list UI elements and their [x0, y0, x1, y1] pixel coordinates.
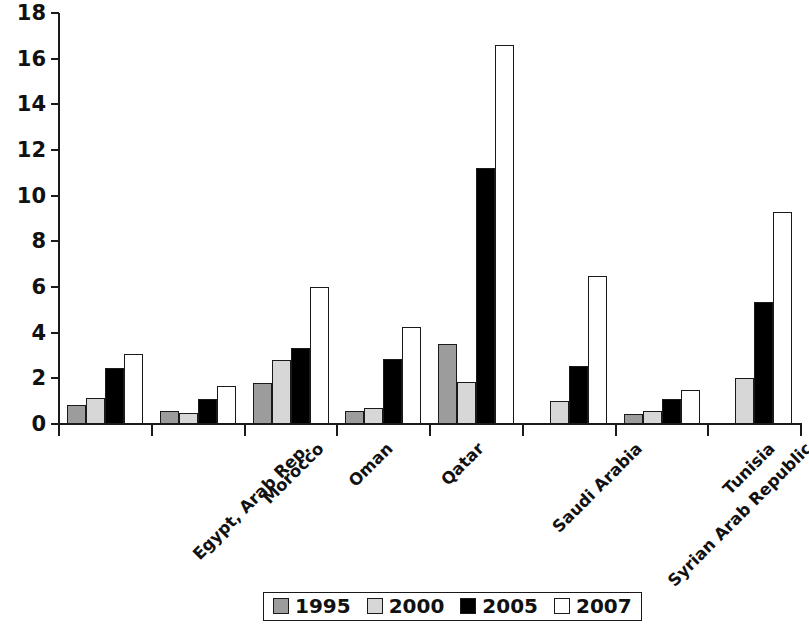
- bar: [402, 327, 421, 424]
- legend-label: 1995: [295, 596, 351, 616]
- bar: [681, 390, 700, 424]
- bar: [272, 360, 291, 424]
- x-tick-mark: [336, 425, 338, 436]
- bar-group-bars: [707, 13, 809, 424]
- legend-item: 1995: [273, 596, 351, 616]
- y-tick-label: 18: [17, 1, 46, 25]
- bar: [86, 398, 105, 424]
- x-tick-mark: [429, 425, 431, 436]
- bar: [457, 382, 476, 424]
- bar-group: [58, 13, 151, 424]
- x-tick-mark: [244, 425, 246, 436]
- bar-group: [615, 13, 708, 424]
- bar: [67, 405, 86, 424]
- bar: [345, 411, 364, 424]
- bar: [179, 413, 198, 424]
- y-tick-label: 4: [31, 321, 46, 345]
- bar: [754, 302, 773, 424]
- bar: [364, 408, 383, 424]
- legend-label: 2000: [389, 596, 445, 616]
- x-tick-mark: [522, 425, 524, 436]
- plot-area: [58, 13, 800, 424]
- bar: [217, 386, 236, 424]
- bar-group-bars: [615, 13, 717, 424]
- bar: [160, 411, 179, 424]
- bar-group-bars: [429, 13, 531, 424]
- bar: [569, 366, 588, 424]
- bar: [291, 348, 310, 424]
- bar-group-bars: [336, 13, 438, 424]
- bar-group-bars: [151, 13, 253, 424]
- bar: [735, 378, 754, 424]
- bar: [310, 287, 329, 424]
- y-tick-label: 8: [31, 229, 46, 253]
- bar-group-bars: [244, 13, 346, 424]
- legend-item: 2005: [460, 596, 538, 616]
- bar: [253, 383, 272, 424]
- bar-group: [429, 13, 522, 424]
- bar: [476, 168, 495, 424]
- bar-group: [707, 13, 800, 424]
- legend-swatch: [367, 598, 383, 614]
- y-tick-label: 2: [31, 366, 46, 390]
- bar-group: [336, 13, 429, 424]
- bar: [105, 368, 124, 424]
- bar: [383, 359, 402, 424]
- bar: [124, 354, 143, 424]
- x-tick-mark: [707, 425, 709, 436]
- bar: [550, 401, 569, 424]
- bar-group: [244, 13, 337, 424]
- x-axis-label: Oman: [345, 439, 397, 491]
- bar: [495, 45, 514, 424]
- legend-label: 2005: [482, 596, 538, 616]
- bar-group: [151, 13, 244, 424]
- x-axis-label: Qatar: [437, 439, 487, 489]
- bar: [773, 212, 792, 424]
- bar: [643, 411, 662, 424]
- bar: [624, 414, 643, 424]
- chart-legend: 1995200020052007: [263, 592, 642, 621]
- bar: [662, 399, 681, 424]
- bar-chart: 024681012141618 Egypt, Arab Rep.MoroccoO…: [0, 0, 809, 627]
- x-tick-mark: [58, 425, 60, 436]
- bar: [438, 344, 457, 424]
- legend-label: 2007: [576, 596, 632, 616]
- x-tick-mark: [800, 425, 802, 436]
- x-tick-mark: [615, 425, 617, 436]
- legend-item: 2007: [554, 596, 632, 616]
- x-axis-label: Syrian Arab Republic: [664, 439, 809, 590]
- bar: [198, 399, 217, 424]
- y-tick-label: 14: [17, 92, 46, 116]
- bar-group-bars: [58, 13, 160, 424]
- y-tick-label: 16: [17, 47, 46, 71]
- y-tick-label: 0: [31, 412, 46, 436]
- bar-group: [522, 13, 615, 424]
- x-tick-mark: [151, 425, 153, 436]
- y-tick-label: 10: [17, 184, 46, 208]
- bar: [588, 276, 607, 424]
- legend-item: 2000: [367, 596, 445, 616]
- bar-group-bars: [522, 13, 624, 424]
- legend-swatch: [554, 598, 570, 614]
- y-tick-label: 6: [31, 275, 46, 299]
- x-axis-label: Saudi Arabia: [549, 439, 646, 536]
- legend-swatch: [273, 598, 289, 614]
- y-tick-label: 12: [17, 138, 46, 162]
- legend-swatch: [460, 598, 476, 614]
